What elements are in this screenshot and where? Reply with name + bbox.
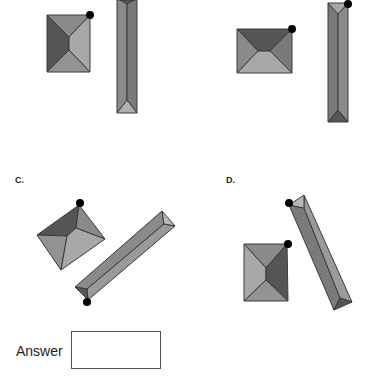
option-d-pyramid [244,244,288,301]
option-b-pyramid [237,29,292,73]
answer-input-box[interactable] [71,331,161,369]
puzzle-figure [0,0,374,390]
option-d-bar [289,195,352,310]
option-b-bar [328,3,348,122]
answer-label: Answer [16,343,63,359]
option-d-bar-dot [285,199,293,207]
option-a-pyramid [47,15,90,72]
option-c-label: C. [15,175,24,185]
option-d-pyramid-dot [284,240,292,248]
option-a-bar [117,0,137,113]
option-c-pyramid [37,205,105,270]
option-b-bar-dot [344,0,352,8]
option-a-pyramid-dot [86,11,94,19]
option-c-pyramid-dot [76,199,84,207]
option-d-label: D. [226,175,235,185]
option-b-pyramid-dot [288,25,296,33]
option-c-bar-dot [83,298,91,306]
